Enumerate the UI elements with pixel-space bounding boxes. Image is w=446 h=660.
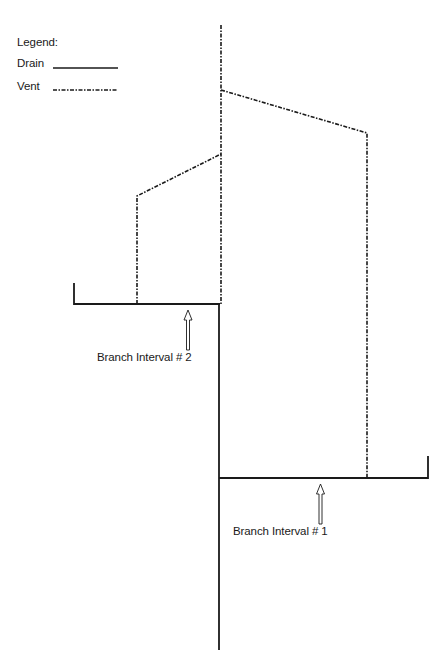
arrow-icon: [184, 310, 325, 524]
vent-branch-1: [221, 90, 367, 478]
drain-branch-1: [219, 456, 428, 478]
arrow-up-icon-branch-1: [317, 484, 325, 524]
vent-lines: [137, 25, 367, 478]
drain-lines: [74, 283, 428, 650]
plumbing-diagram: [0, 0, 446, 660]
drain-branch-2: [74, 283, 220, 304]
vent-branch-2: [137, 154, 221, 304]
arrow-up-icon-branch-2: [184, 310, 192, 350]
